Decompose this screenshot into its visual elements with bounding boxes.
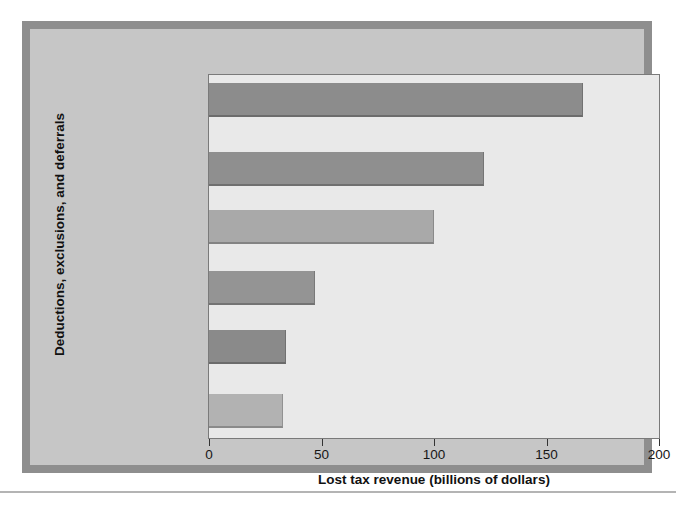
plot-area [208,74,660,439]
x-axis-tick [322,439,323,446]
x-axis-tick-label: 150 [535,447,558,462]
x-axis-tick-label: 200 [648,447,671,462]
bar-pension-contributions-and-interest [209,152,484,186]
bar-row [209,83,583,117]
bar-capital-gains-exclusion-on-home-sales [209,330,286,364]
bar-row [209,210,434,244]
bar-row [209,394,283,428]
y-axis-title: Deductions, exclusions, and deferrals [52,65,67,405]
x-axis-tick [434,439,435,446]
bar-row [209,271,315,305]
chart-panel: Deductions, exclusions, and deferrals Em… [30,29,644,465]
x-axis-tick [209,439,210,446]
bar-state-and-local-tax-deductibility [209,394,283,428]
x-axis-tick [659,439,660,446]
bottom-rule [0,491,676,493]
bar-charitable-contributions [209,271,315,305]
bar-row [209,152,484,186]
bar-row [209,330,286,364]
x-axis-tick-label: 100 [423,447,446,462]
x-axis-tick-label: 0 [205,447,213,462]
bar-employer-paid-health-benefits [209,83,583,117]
x-axis-tick [547,439,548,446]
bar-home-mortgage-deduction [209,210,434,244]
x-axis-tick-label: 50 [314,447,329,462]
x-axis-title: Lost tax revenue (billions of dollars) [208,472,660,487]
